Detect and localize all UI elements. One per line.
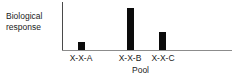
x-axis-tick-label: X-X-B xyxy=(119,53,142,63)
chart-figure: Biological response X-X-AX-X-BX-X-C Pool xyxy=(0,0,237,84)
y-axis-label: Biological response xyxy=(6,11,60,32)
bar xyxy=(78,42,85,50)
y-axis-label-line-1: Biological xyxy=(6,11,60,22)
y-axis-line xyxy=(62,2,63,51)
bar xyxy=(159,32,166,50)
x-axis-tick-label: X-X-A xyxy=(70,53,93,63)
x-axis-line xyxy=(62,50,232,51)
plot-area xyxy=(62,2,232,51)
y-axis-label-line-2: response xyxy=(6,22,60,33)
x-axis-title-text: Pool xyxy=(132,65,149,75)
x-axis-tick-label: X-X-C xyxy=(151,53,174,63)
bar xyxy=(127,8,134,50)
x-axis-title: Pool xyxy=(0,65,237,76)
x-axis-tick-labels: X-X-AX-X-BX-X-C xyxy=(62,53,232,64)
